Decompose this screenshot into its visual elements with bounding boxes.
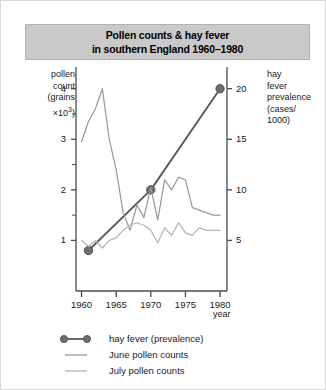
y-axis-left-tick-label: 4 <box>50 83 66 94</box>
y-axis-left-tick-label: 1 <box>50 234 66 245</box>
legend-swatch-hay-fever-icon <box>59 331 101 347</box>
legend-item-june: June pollen counts <box>59 347 279 363</box>
x-axis-tick-label: 1975 <box>170 299 200 310</box>
x-axis-title: year <box>213 309 231 319</box>
series-line-0 <box>88 89 220 251</box>
y-axis-right-tick-label: 20 <box>236 83 254 94</box>
series-group <box>82 85 225 255</box>
chart-legend: hay fever (prevalence) June pollen count… <box>59 331 279 379</box>
series-marker-0 <box>84 246 92 254</box>
chart-plot-area <box>9 9 319 383</box>
x-axis-tick-label: 1970 <box>136 299 166 310</box>
x-axis-tick-label: 1965 <box>101 299 131 310</box>
y-axis-left-tick-label: 3 <box>50 133 66 144</box>
series-line-1 <box>82 89 221 231</box>
y-axis-right-tick-label: 5 <box>236 234 254 245</box>
legend-label-hay-fever: hay fever (prevalence) <box>109 333 204 344</box>
legend-swatch-june-icon <box>59 347 101 363</box>
y-axis-left-tick-label: 2 <box>50 184 66 195</box>
y-axis-right-tick-label: 10 <box>236 184 254 195</box>
figure-frame: Pollen counts & hay fever in southern En… <box>0 0 326 390</box>
legend-item-july: July pollen counts <box>59 363 279 379</box>
y-axis-right-tick-label: 15 <box>236 133 254 144</box>
x-axis-tick-label: 1960 <box>67 299 97 310</box>
series-line-2 <box>82 223 221 248</box>
legend-label-june: June pollen counts <box>109 349 188 360</box>
figure-card: Pollen counts & hay fever in southern En… <box>9 9 319 383</box>
legend-item-hay-fever: hay fever (prevalence) <box>59 331 279 347</box>
legend-swatch-july-icon <box>59 363 101 379</box>
axes-group <box>71 67 232 297</box>
legend-label-july: July pollen counts <box>109 365 185 376</box>
series-marker-0 <box>216 85 224 93</box>
